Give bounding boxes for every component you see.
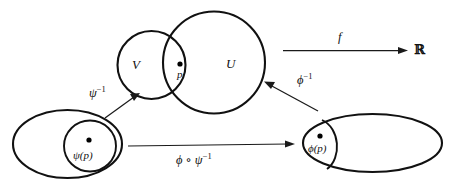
arrow-line-transition-map [128, 144, 288, 146]
arrow-head-transition-map [285, 141, 295, 148]
arrow-label-phi-inverse-exponent: −1 [303, 71, 312, 81]
arrow-label-psi-inverse-exponent: −1 [97, 84, 106, 94]
point-dot-psi-p [86, 137, 91, 142]
point-dot-p [177, 61, 182, 66]
arrow-head-phi-inverse [264, 82, 275, 90]
point-dot-phi-p [317, 133, 322, 138]
region-ellipse-psi-codomain [13, 110, 122, 178]
region-label-v: V [132, 58, 140, 71]
arrow-label-psi-inverse: ψ−1 [89, 85, 106, 100]
codomain-label-real-numbers: ℝ [414, 43, 425, 56]
arrow-label-transition-map: ϕ ∘ ψ−1 [176, 152, 212, 167]
point-label-psi-p: ψ(p) [73, 150, 93, 161]
point-label-phi-p: ϕ(p) [308, 143, 327, 154]
arrow-label-phi-inverse: ϕ−1 [297, 72, 313, 87]
diagram-vector-canvas [0, 0, 452, 191]
diagram-canvas-container: V U p ψ(p) ϕ(p) ℝ f ϕ−1 ψ−1 ϕ ∘ ψ−1 [0, 0, 452, 191]
arrow-line-phi-inverse [270, 85, 318, 111]
arrow-head-f [398, 47, 408, 54]
region-inner-oval-psi [64, 121, 116, 172]
region-label-u: U [226, 57, 235, 70]
point-label-p: p [177, 69, 183, 80]
arrow-label-transition-map-exponent: −1 [203, 151, 212, 161]
arrow-label-psi-inverse-base: ψ [89, 86, 97, 100]
arrow-label-f: f [338, 31, 341, 44]
region-circle-v [118, 31, 186, 99]
arrow-label-transition-map-base: ϕ ∘ ψ [176, 153, 203, 167]
arrow-line-psi-inverse [105, 97, 134, 118]
